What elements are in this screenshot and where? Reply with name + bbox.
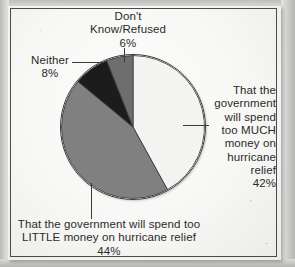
slice-label-little: That the government will spend too LITTL… bbox=[12, 218, 206, 258]
scan-edge-bottom bbox=[0, 259, 295, 267]
much-line-4: too MUCH bbox=[206, 124, 276, 137]
neither-line-1: Neither bbox=[14, 54, 86, 67]
little-line-1: That the government will spend too bbox=[12, 218, 206, 231]
scan-speckle bbox=[250, 200, 252, 202]
leader-line-dont-know bbox=[124, 48, 125, 62]
slice-label-much: That the government will spend too MUCH … bbox=[206, 84, 276, 191]
pie-chart-screenshot: Don't Know/Refused 6% Neither 8% That th… bbox=[0, 0, 295, 267]
little-line-2: LITTLE money on hurricane relief bbox=[12, 231, 206, 244]
much-line-1: That the bbox=[206, 84, 276, 97]
much-line-5: money on bbox=[206, 137, 276, 150]
slice-label-dont-know: Don't Know/Refused 6% bbox=[74, 10, 182, 50]
much-line-3: will spend bbox=[206, 111, 276, 124]
scan-speckle bbox=[40, 30, 42, 31]
much-line-6: hurricane bbox=[206, 151, 276, 164]
neither-value: 8% bbox=[14, 67, 86, 80]
dont-know-line-2: Know/Refused bbox=[74, 23, 182, 36]
much-value: 42% bbox=[206, 177, 276, 190]
scan-edge-right bbox=[281, 0, 295, 267]
scan-speckle bbox=[265, 243, 268, 244]
little-value: 44% bbox=[12, 245, 206, 258]
dont-know-line-1: Don't bbox=[74, 10, 182, 23]
much-line-2: government bbox=[206, 97, 276, 110]
dont-know-value: 6% bbox=[74, 37, 182, 50]
scan-speckle bbox=[120, 14, 122, 15]
leader-line-little bbox=[91, 183, 92, 219]
slice-label-neither: Neither 8% bbox=[14, 54, 86, 81]
much-line-7: relief bbox=[206, 164, 276, 177]
